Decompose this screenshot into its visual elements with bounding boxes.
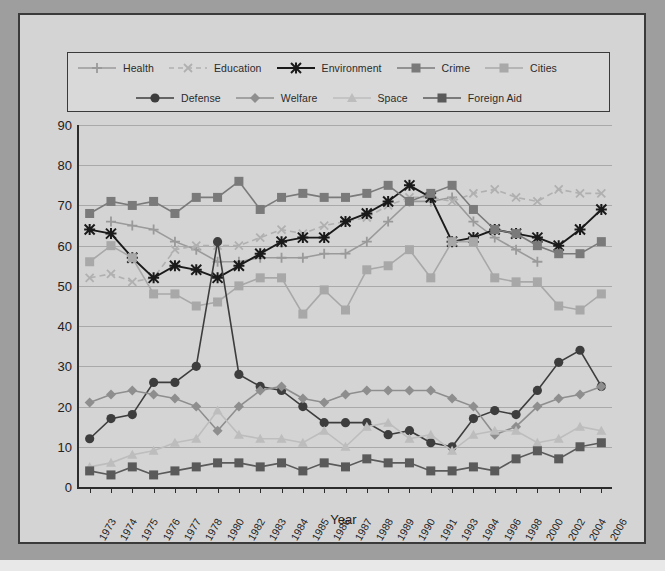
x-axis-tick (516, 487, 517, 493)
legend-item-foreign-aid[interactable]: Foreign Aid (423, 91, 522, 105)
x-axis-tick (452, 487, 453, 493)
chart-container: HealthEducationEnvironmentCrimeCities De… (18, 13, 646, 544)
series-defense (85, 237, 606, 451)
y-axis-tick-label: 90 (58, 118, 72, 133)
legend-item-crime[interactable]: Crime (397, 61, 471, 75)
x-axis-tick (580, 487, 581, 493)
x-axis-tick-label: 2006 (607, 516, 629, 542)
x-axis-tick (537, 487, 538, 493)
legend-item-education[interactable]: Education (169, 61, 262, 75)
x-axis-tick (154, 487, 155, 493)
x-axis-tick (303, 487, 304, 493)
x-axis-tick (132, 487, 133, 493)
x-axis-tick (260, 487, 261, 493)
x-axis-tick (473, 487, 474, 493)
legend-label: Cities (530, 62, 557, 74)
triangle-marker-icon (333, 91, 371, 105)
legend-item-defense[interactable]: Defense (136, 91, 221, 105)
x-axis-tick (495, 487, 496, 493)
square-marker-icon (397, 61, 435, 75)
x-axis-tick (388, 487, 389, 493)
legend-row-primary: HealthEducationEnvironmentCrimeCities (68, 53, 609, 83)
circle-marker-icon (136, 91, 174, 105)
plot-area: 0102030405060708090 19731974197519761977… (77, 125, 612, 489)
x-axis-tick (218, 487, 219, 493)
x-axis-tick (90, 487, 91, 493)
legend-row-secondary: DefenseWelfareSpaceForeign Aid (68, 83, 609, 113)
legend-item-health[interactable]: Health (78, 61, 154, 75)
legend-label: Welfare (281, 92, 318, 104)
plus-marker-icon (78, 61, 116, 75)
y-axis-tick-label: 10 (58, 439, 72, 454)
y-axis-tick-label: 80 (58, 158, 72, 173)
legend-item-environment[interactable]: Environment (277, 61, 382, 75)
y-axis-tick-label: 70 (58, 198, 72, 213)
legend-label: Crime (442, 62, 471, 74)
y-axis-tick-label: 60 (58, 238, 72, 253)
chart-legend: HealthEducationEnvironmentCrimeCities De… (67, 52, 610, 112)
x-axis-tick (239, 487, 240, 493)
x-axis-tick (431, 487, 432, 493)
legend-label: Space (378, 92, 408, 104)
x-axis-tick (196, 487, 197, 493)
y-axis-tick-label: 20 (58, 399, 72, 414)
x-axis-tick (111, 487, 112, 493)
series-welfare (85, 381, 607, 439)
square-marker-icon (423, 91, 461, 105)
star-marker-icon (277, 61, 315, 75)
y-axis-tick-label: 30 (58, 359, 72, 374)
y-axis-tick-label: 50 (58, 278, 72, 293)
legend-label: Education (214, 62, 262, 74)
diamond-marker-icon (236, 91, 274, 105)
legend-label: Environment (322, 62, 382, 74)
x-marker-icon (169, 61, 207, 75)
legend-label: Defense (181, 92, 221, 104)
series-lines (79, 125, 612, 487)
y-axis-tick-label: 0 (65, 480, 72, 495)
outer-frame: HealthEducationEnvironmentCrimeCities De… (0, 0, 665, 560)
x-axis-title: Year (77, 512, 610, 527)
x-axis-tick (409, 487, 410, 493)
plot-wrapper: HealthEducationEnvironmentCrimeCities De… (20, 15, 644, 542)
square-marker-icon (485, 61, 523, 75)
legend-item-cities[interactable]: Cities (485, 61, 557, 75)
x-axis-tick (282, 487, 283, 493)
x-axis-tick (324, 487, 325, 493)
x-axis-tick (346, 487, 347, 493)
x-axis-tick (367, 487, 368, 493)
legend-item-welfare[interactable]: Welfare (236, 91, 318, 105)
bottom-band (0, 560, 665, 571)
legend-item-space[interactable]: Space (333, 91, 408, 105)
legend-label: Foreign Aid (468, 92, 522, 104)
y-axis-tick-label: 40 (58, 319, 72, 334)
x-axis-tick (559, 487, 560, 493)
x-axis-tick (175, 487, 176, 493)
x-axis-tick (601, 487, 602, 493)
legend-label: Health (123, 62, 154, 74)
